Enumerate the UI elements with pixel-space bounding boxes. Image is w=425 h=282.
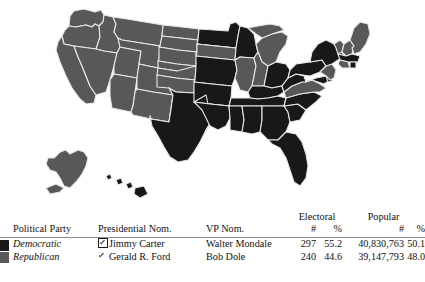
winner-checkbox-wrap[interactable] <box>98 238 109 250</box>
democratic-swatch-cell <box>0 238 13 251</box>
election-results-table: Electoral Popular Political Party Presid… <box>0 211 425 263</box>
state-FL <box>268 132 308 186</box>
state-WA <box>69 9 104 27</box>
democratic-swatch <box>0 240 9 251</box>
column-header-party: Political Party <box>13 223 98 235</box>
state-HI-3 <box>126 182 133 189</box>
state-AK-tail <box>46 184 64 194</box>
state-ME <box>350 22 370 54</box>
table-row: Republican Gerald R. Ford Bob Dole 240 4… <box>0 251 425 263</box>
electoral-votes: 297 <box>292 238 316 251</box>
state-HI-4 <box>134 186 148 198</box>
popular-percent: 50.1 <box>404 238 425 251</box>
state-RI <box>350 62 356 68</box>
us-map-svg <box>0 0 425 212</box>
column-header-popular-pct: % <box>404 223 425 235</box>
column-header-president: Presidential Nom. <box>98 223 206 235</box>
republican-swatch-cell <box>0 251 13 263</box>
vp-nominee: Bob Dole <box>206 251 292 263</box>
column-header-electoral-num: # <box>292 223 316 235</box>
map-states <box>46 9 370 198</box>
spacer-cell <box>206 211 292 223</box>
spacer-cell <box>0 211 13 223</box>
state-AL <box>242 106 262 134</box>
popular-votes: 40,830,763 <box>342 238 404 251</box>
group-header-row: Electoral Popular <box>0 211 425 223</box>
presidential-nominee: Gerald R. Ford <box>109 251 170 262</box>
state-PA <box>288 60 326 78</box>
republican-swatch <box>0 252 9 263</box>
state-UT <box>114 47 141 78</box>
presidential-nominee-cell: Gerald R. Ford <box>98 251 206 263</box>
unchecked-checkbox-icon[interactable] <box>98 253 106 261</box>
spacer-cell <box>0 223 13 235</box>
presidential-nominee-cell: Jimmy Carter <box>98 238 206 251</box>
winner-checkbox-wrap[interactable] <box>98 251 109 263</box>
electoral-votes: 240 <box>292 251 316 263</box>
popular-percent: 48.0 <box>404 251 425 263</box>
presidential-nominee: Jimmy Carter <box>109 238 165 249</box>
state-HI-1 <box>106 174 112 180</box>
group-header-electoral: Electoral <box>292 211 342 223</box>
popular-votes: 39,147,793 <box>342 251 404 263</box>
state-MO <box>194 56 237 86</box>
party-name: Democratic <box>13 238 98 251</box>
state-HI-2 <box>116 178 123 185</box>
results-table-container: Electoral Popular Political Party Presid… <box>0 211 425 282</box>
vp-nominee: Walter Mondale <box>206 238 292 251</box>
spacer-cell <box>98 211 206 223</box>
state-MN <box>197 22 240 48</box>
checked-checkbox-icon[interactable] <box>98 238 108 248</box>
electoral-percent: 55.2 <box>316 238 342 251</box>
column-header-row: Political Party Presidential Nom. VP Nom… <box>0 223 425 235</box>
electoral-percent: 44.6 <box>316 251 342 263</box>
column-header-electoral-pct: % <box>316 223 342 235</box>
spacer-cell <box>13 211 98 223</box>
state-AK <box>46 150 88 188</box>
table-row: Democratic Jimmy Carter Walter Mondale 2… <box>0 238 425 251</box>
party-name: Republican <box>13 251 98 263</box>
state-NM <box>131 89 173 122</box>
column-header-popular-num: # <box>342 223 404 235</box>
group-header-popular: Popular <box>342 211 425 223</box>
column-header-vp: VP Nom. <box>206 223 292 235</box>
state-MS <box>229 106 244 132</box>
election-map <box>0 0 425 212</box>
